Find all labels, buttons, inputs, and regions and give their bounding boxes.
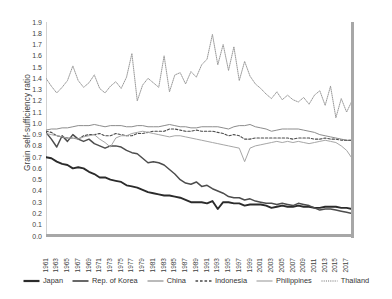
series-canvas xyxy=(46,22,352,236)
x-tick-label: 1997 xyxy=(235,258,241,272)
y-tick-label: 1.0 xyxy=(20,120,42,127)
y-tick-label: 0.6 xyxy=(20,165,42,172)
x-tick-label: 2001 xyxy=(257,258,263,272)
x-tick-label: 2003 xyxy=(268,258,274,272)
y-tick-label: 0.3 xyxy=(20,199,42,206)
legend-label: Thailand xyxy=(341,276,369,285)
legend-label: Indonesia xyxy=(215,276,247,285)
legend-line-icon xyxy=(147,278,164,284)
y-tick-label: 1.4 xyxy=(20,75,42,82)
legend-item-rep-of-korea[interactable]: Rep. of Korea xyxy=(72,276,138,285)
y-tick-label: 0.9 xyxy=(20,131,42,138)
x-tick-label: 1991 xyxy=(203,258,209,272)
y-tick-label: 1.9 xyxy=(20,19,42,26)
x-tick-label: 1971 xyxy=(96,258,102,272)
y-tick-label: 0.5 xyxy=(20,176,42,183)
x-tick-label: 1999 xyxy=(246,258,252,272)
y-tick-label: 0.2 xyxy=(20,210,42,217)
legend-label: Rep. of Korea xyxy=(92,276,138,285)
x-tick-label: 1977 xyxy=(128,258,134,272)
x-tick-label: 2013 xyxy=(321,258,327,272)
x-tick-label: 1963 xyxy=(53,258,59,272)
y-tick-label: 1.3 xyxy=(20,86,42,93)
x-tick-label: 1987 xyxy=(182,258,188,272)
legend-label: Philippines xyxy=(276,276,312,285)
x-tick-label: 1985 xyxy=(171,258,177,272)
legend-item-philippines[interactable]: Philippines xyxy=(256,276,312,285)
x-tick-label: 2017 xyxy=(343,258,349,272)
grain-self-sufficiency-chart: Grain self-sufficiency ratio 1.91.81.71.… xyxy=(0,0,392,299)
legend-item-thailand[interactable]: Thailand xyxy=(321,276,369,285)
y-tick-label: 0.7 xyxy=(20,154,42,161)
x-tick-label: 1975 xyxy=(117,258,123,272)
series-line-thailand xyxy=(46,34,352,117)
y-axis-tick-labels: 1.91.81.71.61.51.41.31.21.11.00.90.80.70… xyxy=(18,0,42,299)
y-tick-label: 1.5 xyxy=(20,64,42,71)
legend-item-japan[interactable]: Japan xyxy=(23,276,63,285)
y-tick-label: 1.2 xyxy=(20,97,42,104)
x-tick-label: 1967 xyxy=(74,258,80,272)
series-line-china xyxy=(46,124,352,140)
y-tick-label: 0.4 xyxy=(20,187,42,194)
y-tick-label: 1.8 xyxy=(20,30,42,37)
plot-right-border xyxy=(351,22,354,238)
y-tick-label: 1.6 xyxy=(20,52,42,59)
legend-item-indonesia[interactable]: Indonesia xyxy=(195,276,247,285)
chart-legend: JapanRep. of KoreaChinaIndonesiaPhilippi… xyxy=(0,276,392,285)
y-tick-label: 1.7 xyxy=(20,41,42,48)
legend-line-icon xyxy=(195,278,212,284)
legend-line-icon xyxy=(321,278,338,284)
legend-line-icon xyxy=(72,278,89,284)
legend-line-icon xyxy=(23,278,40,284)
x-tick-label: 1981 xyxy=(150,258,156,272)
x-tick-label: 2015 xyxy=(332,258,338,272)
y-tick-label: 1.1 xyxy=(20,109,42,116)
x-tick-label: 2005 xyxy=(278,258,284,272)
x-axis-tick-labels: 1961196319651967196919711973197519771979… xyxy=(46,238,352,272)
x-tick-label: 2011 xyxy=(311,258,317,272)
x-tick-label: 1969 xyxy=(85,258,91,272)
legend-label: Japan xyxy=(43,276,63,285)
x-axis-line xyxy=(46,234,354,237)
x-tick-label: 1965 xyxy=(64,258,70,272)
series-line-philippines xyxy=(46,131,352,161)
y-tick-label: 0.8 xyxy=(20,142,42,149)
x-tick-label: 1983 xyxy=(160,258,166,272)
legend-label: China xyxy=(167,276,186,285)
x-tick-label: 1979 xyxy=(139,258,145,272)
x-tick-label: 1995 xyxy=(225,258,231,272)
x-tick-label: 1993 xyxy=(214,258,220,272)
legend-line-icon xyxy=(256,278,273,284)
x-tick-label: 2009 xyxy=(300,258,306,272)
y-tick-label: 0.1 xyxy=(20,221,42,228)
x-tick-label: 1961 xyxy=(42,258,48,272)
legend-item-china[interactable]: China xyxy=(147,276,186,285)
series-line-japan xyxy=(46,157,352,209)
y-tick-label: 0.0 xyxy=(20,233,42,240)
x-tick-label: 1989 xyxy=(193,258,199,272)
x-tick-label: 2007 xyxy=(289,258,295,272)
x-tick-label: 1973 xyxy=(107,258,113,272)
plot-area xyxy=(46,22,352,236)
